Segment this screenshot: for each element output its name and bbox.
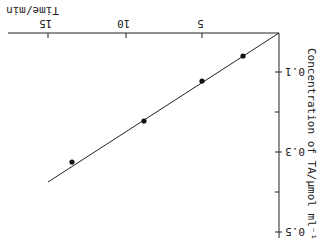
y-tick-label-0.5: 0.5 [285, 225, 305, 238]
y-tick-label-0.1: 0.1 [285, 65, 305, 78]
y-tick-label-0.3: 0.3 [285, 145, 305, 158]
x-tick-label-15: 15 [39, 17, 52, 30]
y-axis-title: Concentration of TA/µmol ml⁻¹ [305, 48, 318, 240]
data-point [240, 53, 245, 58]
x-tick-label-5: 5 [197, 17, 204, 30]
data-point [69, 159, 74, 164]
chart-plot [0, 0, 322, 246]
x-axis-title: Time/min [6, 4, 59, 17]
data-point [199, 78, 204, 83]
data-point [141, 118, 146, 123]
x-tick-label-10: 10 [117, 17, 130, 30]
